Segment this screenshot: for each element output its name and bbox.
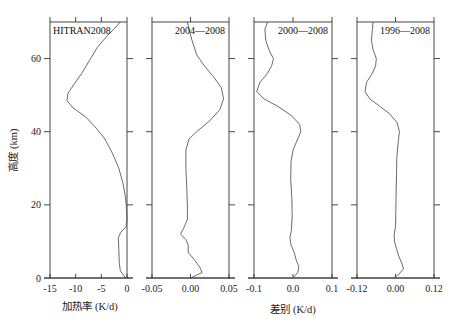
y-tick-label: 40 — [31, 126, 41, 137]
profile-curve — [181, 22, 224, 278]
plot-frame — [152, 22, 229, 278]
x-tick-label: 0.12 — [425, 283, 443, 294]
x-tick-label: 0 — [125, 283, 130, 294]
plot-frame — [357, 22, 434, 278]
profile-curve — [67, 22, 127, 278]
x-tick-label: -0.05 — [142, 283, 163, 294]
panel-2: -0.050.000.052004—2008 — [142, 17, 238, 294]
panel-label: 2000—2008 — [278, 25, 328, 36]
y-tick-label: 60 — [31, 53, 41, 64]
y-tick-label: 20 — [31, 199, 41, 210]
profile-curve — [257, 22, 301, 278]
panel-4: -0.120.000.121996—2008 — [347, 17, 443, 294]
panel-3: -0.10.00.12000—2008 — [246, 17, 338, 294]
x-tick-label: -0.1 — [246, 283, 262, 294]
x-tick-label: 0.0 — [287, 283, 300, 294]
figure: 高度 (km) -15-10-500204060HITRAN2008-0.050… — [0, 0, 450, 323]
x-tick-label: -0.12 — [347, 283, 368, 294]
profile-curve — [365, 22, 404, 278]
x-tick-label: -5 — [97, 283, 105, 294]
y-tick-label: 0 — [36, 273, 41, 284]
x-tick-label: 0.1 — [326, 283, 339, 294]
panel-1: -15-10-500204060HITRAN2008 — [31, 17, 133, 294]
x-tick-label: -10 — [69, 283, 82, 294]
panel-label: 1996—2008 — [380, 25, 430, 36]
plot-frame — [50, 22, 127, 278]
panel-label: HITRAN2008 — [53, 25, 111, 36]
x-tick-label: 0.00 — [387, 283, 405, 294]
panel-label: 2004—2008 — [175, 25, 225, 36]
x-tick-label: 0.05 — [220, 283, 238, 294]
x-tick-label: 0.00 — [182, 283, 200, 294]
x-tick-label: -15 — [43, 283, 56, 294]
x-axis-title-heating-rate: 加热率 (K/d) — [62, 300, 118, 313]
x-axis-title-difference: 差别 (K/d) — [270, 303, 316, 316]
y-axis-title: 高度 (km) — [7, 128, 20, 172]
